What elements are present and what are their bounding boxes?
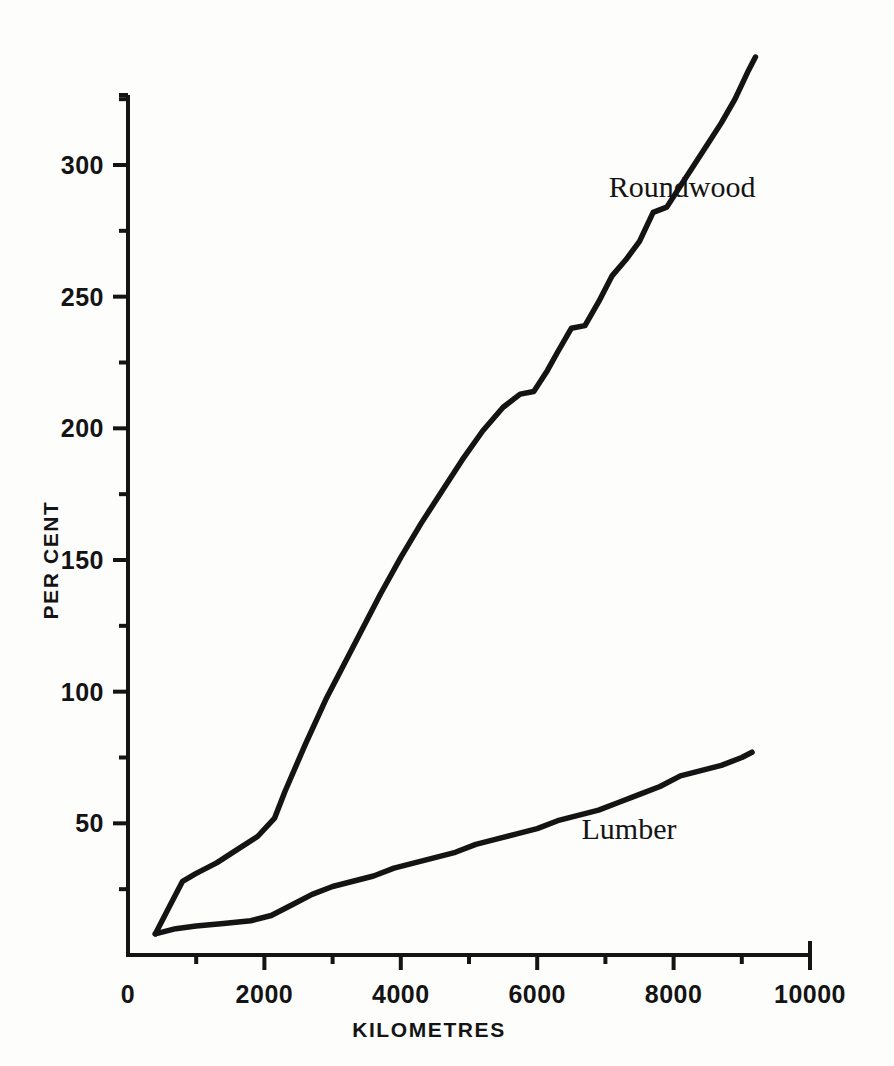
tick-labels: 501001502002503000200040006000800010000 bbox=[61, 151, 846, 1008]
y-tick-label: 200 bbox=[61, 414, 104, 442]
y-tick-label: 100 bbox=[61, 678, 104, 706]
series-label-roundwood: Roundwood bbox=[609, 170, 756, 203]
x-tick-label: 2000 bbox=[236, 980, 294, 1008]
x-tick-label: 10000 bbox=[774, 980, 846, 1008]
axis-titles: KILOMETRESPER CENT bbox=[39, 501, 506, 1041]
series-labels: RoundwoodLumber bbox=[582, 170, 756, 846]
x-tick-label: 0 bbox=[121, 980, 135, 1008]
axis-spine bbox=[128, 95, 810, 955]
series-label-lumber: Lumber bbox=[582, 812, 677, 845]
axes bbox=[119, 95, 810, 955]
x-axis-title: KILOMETRES bbox=[352, 1018, 506, 1041]
chart-plot-area: 501001502002503000200040006000800010000 … bbox=[0, 0, 894, 1066]
y-axis-title: PER CENT bbox=[39, 501, 62, 620]
x-tick-label: 6000 bbox=[508, 980, 566, 1008]
x-tick-label: 4000 bbox=[372, 980, 430, 1008]
y-tick-label: 250 bbox=[61, 283, 104, 311]
y-tick-label: 300 bbox=[61, 151, 104, 179]
tick-marks bbox=[113, 99, 810, 970]
x-tick-label: 8000 bbox=[645, 980, 703, 1008]
y-tick-label: 50 bbox=[75, 809, 104, 837]
chart-figure: 501001502002503000200040006000800010000 … bbox=[0, 0, 894, 1066]
y-tick-label: 150 bbox=[61, 546, 104, 574]
